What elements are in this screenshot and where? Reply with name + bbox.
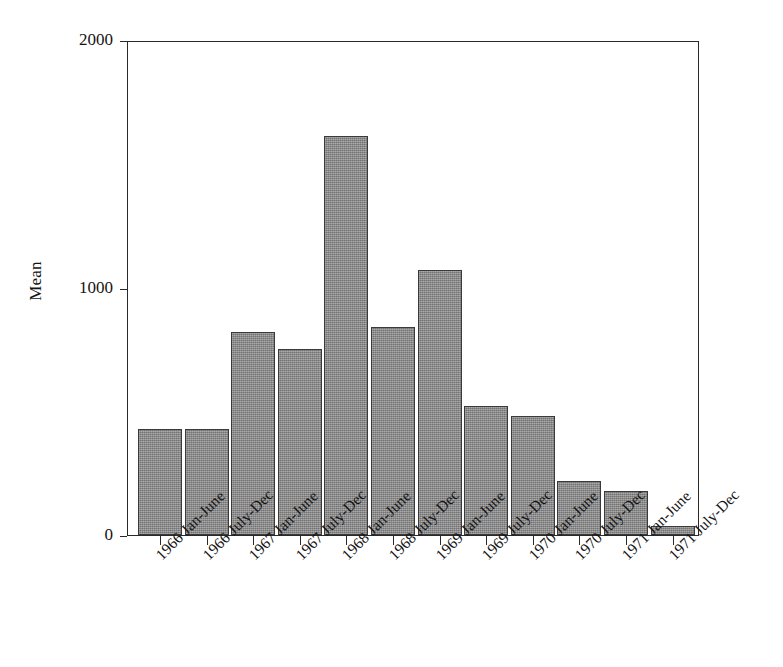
y-axis-tick: 0 <box>120 536 127 537</box>
y-axis-tick: 2000 <box>120 41 127 42</box>
y-axis-tick-label: 2000 <box>79 30 113 50</box>
y-axis-tick: 1000 <box>120 289 127 290</box>
y-axis-line <box>127 41 128 536</box>
y-axis-tick-label: 0 <box>105 525 114 545</box>
y-axis-tick-label: 1000 <box>79 278 113 298</box>
bar-chart-figure: Mean 010002000 1966 Jan-June1966 July-De… <box>0 0 783 667</box>
bar <box>138 429 182 535</box>
plot-frame-top <box>127 41 699 42</box>
plot-area: 010002000 <box>127 41 698 536</box>
bar <box>324 136 368 535</box>
y-axis-title: Mean <box>26 233 46 329</box>
plot-frame-right <box>698 41 699 536</box>
